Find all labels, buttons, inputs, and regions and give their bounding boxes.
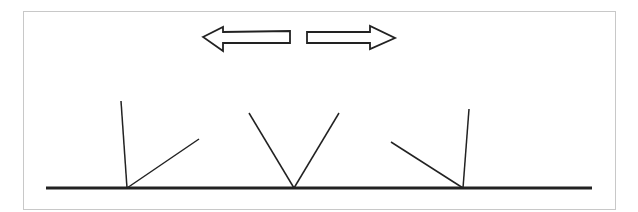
left-arrow-icon <box>203 27 290 51</box>
diagram-canvas <box>0 0 638 212</box>
figure-left <box>121 101 199 188</box>
figure-right <box>391 109 469 188</box>
figure-center <box>249 113 339 188</box>
right-arrow-icon <box>307 26 395 49</box>
